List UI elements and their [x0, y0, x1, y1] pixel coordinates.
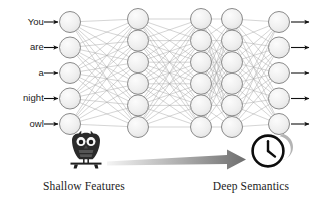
- neuron-hidden-layer-3-1: [222, 30, 243, 51]
- neuron-hidden-layer-2-2: [191, 52, 212, 73]
- neuron-hidden-layer-2-3: [191, 73, 212, 94]
- neuron-hidden-layer-2-0: [191, 9, 212, 30]
- neuron-hidden-layer-1-1: [128, 30, 149, 51]
- input-token-label-0: You: [0, 17, 44, 27]
- input-token-label-3: night: [0, 93, 44, 103]
- gradient-arrow-right-icon: [107, 150, 246, 170]
- neuron-hidden-layer-3-4: [222, 95, 243, 116]
- neuron-hidden-layer-3-5: [222, 117, 243, 138]
- neuron-hidden-layer-3-3: [222, 73, 243, 94]
- network-diagram: [0, 0, 316, 202]
- input-token-label-1: are: [0, 42, 44, 52]
- neuron-output-layer-2: [269, 63, 290, 84]
- figure-root: You are a night owl Shallow Features Dee…: [0, 0, 316, 202]
- input-arrows: [44, 22, 58, 124]
- neuron-hidden-layer-3-0: [222, 9, 243, 30]
- network-edges: [76, 19, 275, 127]
- output-arrows: [291, 22, 309, 124]
- input-token-label-2: a: [0, 68, 44, 78]
- neuron-hidden-layer-3-2: [222, 52, 243, 73]
- neuron-output-layer-0: [269, 12, 290, 33]
- neuron-output-layer-1: [269, 37, 290, 58]
- neuron-input-layer-0: [60, 12, 81, 33]
- neuron-hidden-layer-1-5: [128, 117, 149, 138]
- neuron-hidden-layer-1-3: [128, 73, 149, 94]
- neuron-hidden-layer-1-4: [128, 95, 149, 116]
- neuron-input-layer-4: [60, 114, 81, 135]
- neuron-input-layer-1: [60, 37, 81, 58]
- neuron-input-layer-2: [60, 63, 81, 84]
- neuron-hidden-layer-2-1: [191, 30, 212, 51]
- neuron-hidden-layer-1-0: [128, 9, 149, 30]
- neuron-hidden-layer-2-5: [191, 117, 212, 138]
- deep-semantics-caption: Deep Semantics: [192, 180, 310, 192]
- input-token-label-4: owl: [0, 119, 44, 129]
- neuron-hidden-layer-1-2: [128, 52, 149, 73]
- neuron-output-layer-4: [269, 114, 290, 135]
- shallow-features-caption: Shallow Features: [24, 180, 144, 192]
- neuron-input-layer-3: [60, 88, 81, 109]
- clock-moon-icon: [253, 134, 293, 166]
- owl-icon: [71, 131, 102, 169]
- neuron-hidden-layer-2-4: [191, 95, 212, 116]
- neuron-output-layer-3: [269, 88, 290, 109]
